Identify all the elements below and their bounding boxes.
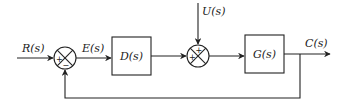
plant-block: G(s) (245, 35, 284, 73)
summing-junction-2: + + (187, 45, 209, 67)
controller-block: D(s) (112, 37, 151, 75)
disturbance-label: U(s) (202, 5, 226, 18)
error-label: E(s) (81, 42, 104, 55)
summing-junction-1: + − (54, 47, 76, 70)
controller-label: D(s) (119, 50, 143, 63)
output-signal: C(s) (284, 37, 330, 54)
block-diagram: R(s) + − E(s) D(s) U(s) + + G(s) (0, 0, 347, 105)
plant-label: G(s) (253, 48, 276, 61)
output-label: C(s) (305, 37, 328, 50)
sum1-sign-bottom: − (63, 61, 70, 70)
sum2-sign-top: + (196, 46, 203, 55)
input-label: R(s) (21, 42, 45, 55)
input-signal: R(s) (17, 42, 53, 58)
error-signal: E(s) (76, 42, 111, 58)
disturbance-signal: U(s) (198, 3, 226, 44)
